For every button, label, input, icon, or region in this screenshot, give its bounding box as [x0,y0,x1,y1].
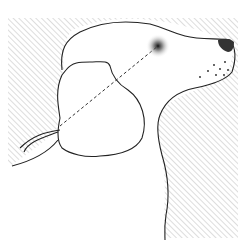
dog-illustration [0,0,244,251]
muzzle-dots [199,61,229,78]
nose [218,39,234,52]
eye-icon [146,34,170,58]
dog-drawing [0,0,244,251]
